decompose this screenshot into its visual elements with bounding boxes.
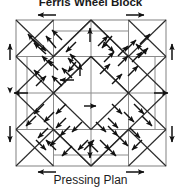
quilt-block-diagram <box>0 0 181 190</box>
pressing-plan-figure: Ferris Wheel Block <box>0 0 181 190</box>
pressing-plan-caption: Pressing Plan <box>0 173 181 187</box>
